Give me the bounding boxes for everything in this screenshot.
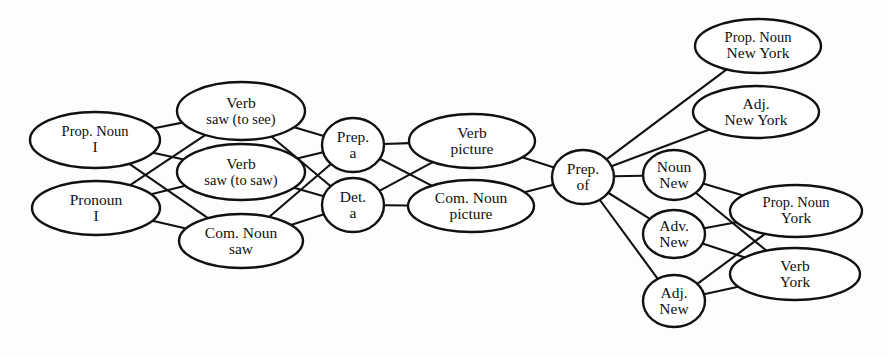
lattice-node-n9[interactable] [408, 180, 534, 232]
lattice-node-n5[interactable] [179, 214, 303, 268]
lattice-edge [379, 162, 432, 191]
lattice-edge [522, 157, 554, 167]
lattice-node-n15[interactable] [643, 275, 705, 327]
lattice-edge [614, 176, 643, 177]
lattice-node-n10[interactable] [552, 150, 614, 204]
lattice-edge [703, 184, 743, 196]
lattice-node-n12[interactable] [693, 86, 819, 138]
lattice-edge [154, 123, 182, 129]
lattice-node-n4[interactable] [177, 144, 305, 200]
node-layer [30, 19, 862, 327]
lattice-edge [608, 193, 650, 219]
lattice-edge [297, 152, 323, 158]
lattice-edge [384, 143, 409, 144]
lattice-node-n1[interactable] [30, 112, 160, 168]
lattice-node-n8[interactable] [409, 114, 535, 168]
lattice-edge [380, 159, 432, 186]
lattice-edge [151, 186, 185, 194]
lattice-edge [291, 214, 324, 225]
lattice-node-n16[interactable] [730, 185, 862, 237]
lattice-edge [704, 222, 736, 228]
lattice-node-n6[interactable] [322, 118, 384, 172]
lattice-edge [152, 221, 186, 229]
lattice-edge [704, 287, 738, 295]
lattice-edge [703, 243, 745, 257]
lattice-edge [524, 185, 553, 192]
lattice-node-n7[interactable] [322, 178, 384, 232]
lattice-node-n3[interactable] [177, 82, 305, 140]
lattice-node-n17[interactable] [730, 248, 860, 300]
lattice-edge [294, 127, 324, 136]
lattice-node-n2[interactable] [32, 181, 160, 235]
diagram-canvas: Prop. NounIPronounIVerbsaw (to see)Verbs… [0, 0, 888, 357]
lattice-node-n14[interactable] [643, 210, 705, 258]
lattice-node-n13[interactable] [643, 150, 705, 200]
word-lattice-svg [0, 0, 888, 357]
lattice-node-n11[interactable] [695, 19, 821, 73]
